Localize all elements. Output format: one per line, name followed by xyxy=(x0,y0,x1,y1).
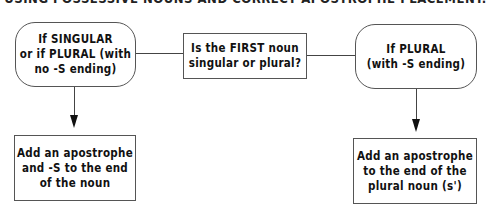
connector-question-to-singular xyxy=(136,53,183,54)
plural-action-text: Add an apostrophe to the end of the plur… xyxy=(357,149,473,194)
diagram-title: USING POSSESSIVE NOUNS AND CORRECT APOST… xyxy=(0,0,491,6)
connector-question-to-plural xyxy=(307,55,355,56)
plural-condition-text: If PLURAL (with -S ending) xyxy=(367,42,466,72)
arrow-down-icon xyxy=(412,119,420,132)
question-text: Is the FIRST noun singular or plural? xyxy=(189,41,302,71)
singular-action-text: Add an apostrophe and -S to the end of t… xyxy=(17,146,133,191)
plural-action-node: Add an apostrophe to the end of the plur… xyxy=(353,138,477,204)
connector-plural-down xyxy=(416,89,417,121)
singular-condition-node: If SINGULAR or if PLURAL (with no -S end… xyxy=(15,22,136,87)
arrow-down-icon xyxy=(70,115,78,128)
singular-action-node: Add an apostrophe and -S to the end of t… xyxy=(14,135,136,201)
plural-condition-node: If PLURAL (with -S ending) xyxy=(355,24,477,89)
question-node: Is the FIRST noun singular or plural? xyxy=(183,33,307,79)
connector-singular-down xyxy=(74,87,75,117)
singular-condition-text: If SINGULAR or if PLURAL (with no -S end… xyxy=(20,32,131,77)
